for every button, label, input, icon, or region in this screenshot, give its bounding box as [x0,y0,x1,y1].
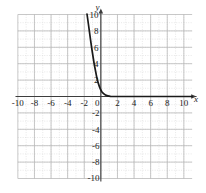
x-tick-label: 4 [132,98,137,108]
x-tick-label: -4 [64,98,72,108]
x-tick-label: 6 [148,98,153,108]
x-tick-label: -8 [31,98,39,108]
y-tick-label: 8 [94,26,99,36]
x-tick-label: 10 [179,98,189,108]
x-axis-name: x [193,94,198,104]
x-tick-label: -10 [12,98,24,108]
y-tick-label: -2 [92,108,100,118]
y-tick-label: -8 [92,157,100,167]
x-tick-label: 2 [115,98,120,108]
x-tick-label: -2 [81,98,89,108]
y-tick-label: 10 [90,10,100,20]
x-tick-label: 8 [165,98,170,108]
x-tick-label-origin: 0 [95,98,100,108]
y-tick-label: -10 [88,173,100,183]
graph-svg: x y -10 -8 -6 -4 -2 0 2 4 6 8 10 10 8 6 … [0,0,206,193]
x-tick-label: -6 [47,98,55,108]
y-tick-label: -6 [92,141,100,151]
y-tick-label: -4 [92,125,100,135]
exponential-decay-graph: x y -10 -8 -6 -4 -2 0 2 4 6 8 10 10 8 6 … [0,0,206,193]
y-tick-label: 6 [94,43,99,53]
